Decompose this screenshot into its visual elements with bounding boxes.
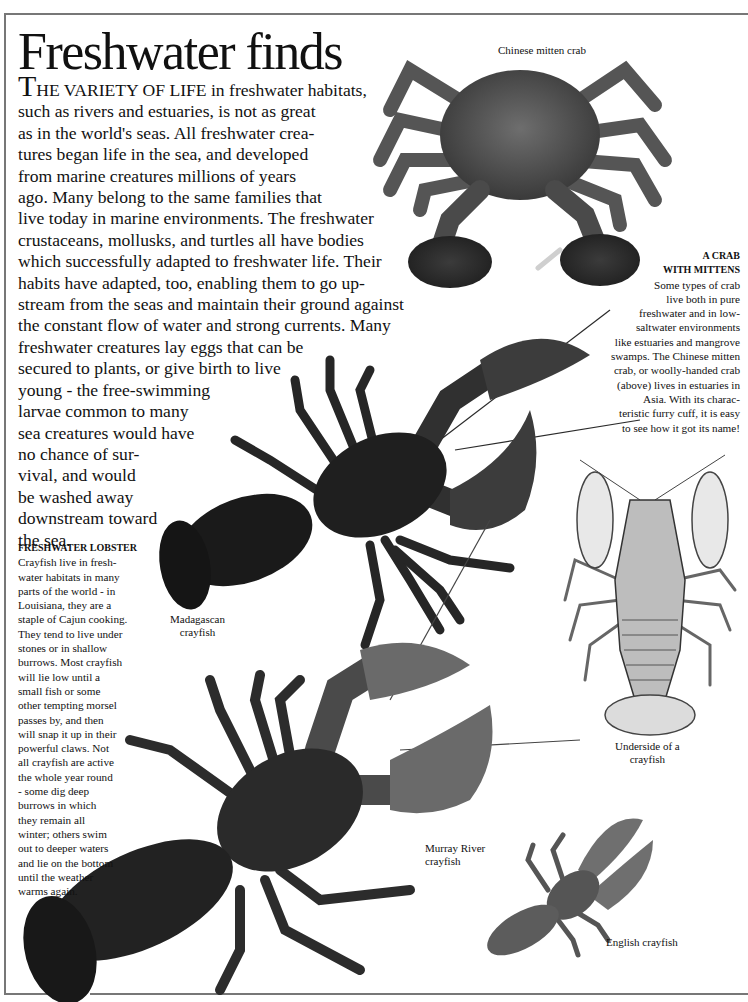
label-line: Murray River (425, 842, 485, 855)
page-title: Freshwater finds (18, 24, 342, 80)
label-chinese-mitten-crab: Chinese mitten crab (498, 44, 586, 57)
underside-tail-fan (605, 695, 695, 735)
intro-line: such as rivers and estuaries, is not as … (18, 101, 404, 122)
label-line: crayfish (425, 855, 485, 868)
crab-caption-heading: WITH MITTENS (550, 263, 740, 277)
label-underside-crayfish: Underside of a crayfish (615, 740, 680, 766)
label-line: Underside of a (615, 740, 680, 753)
lobster-caption-line: - some dig deep (18, 784, 178, 798)
crab-caption-line: Some types of crab (550, 278, 740, 292)
lobster-caption-line: small fish or some (18, 684, 178, 698)
label-murray-river-crayfish: Murray River crayfish (425, 842, 485, 868)
intro-line: live today in marine environments. The f… (18, 208, 404, 229)
intro-smallcaps: HE VARIETY OF LIFE (36, 80, 206, 100)
intro-line: THE VARIETY OF LIFE in freshwater habita… (18, 76, 404, 101)
crab-arm-right (555, 190, 595, 240)
lobster-caption-line: until the weather (18, 870, 178, 884)
lobster-caption: FRESHWATER LOBSTER Crayfish live in fres… (18, 541, 178, 898)
intro-line: as in the world's seas. All freshwater c… (18, 123, 404, 144)
intro-line: which successfully adapted to freshwater… (18, 251, 404, 272)
lobster-caption-line: Crayfish live in fresh- (18, 555, 178, 569)
lobster-caption-line: parts of the world - in (18, 584, 178, 598)
lobster-caption-line: stones or in shallow (18, 641, 178, 655)
lobster-caption-line: burrows. Most crayfish (18, 655, 178, 669)
page-border-left (4, 13, 6, 995)
lobster-caption-line: powerful claws. Not (18, 741, 178, 755)
label-line: crayfish (615, 753, 680, 766)
murray-claw-lower (390, 705, 493, 813)
lobster-caption-line: passes by, and then (18, 713, 178, 727)
underside-claw-right (692, 472, 728, 568)
underside-claw-left (577, 472, 613, 568)
crayfish-claw-upper (480, 339, 590, 400)
underside-body (615, 500, 685, 700)
label-english-crayfish: English crayfish (606, 936, 678, 949)
page-border-top (4, 13, 748, 15)
lobster-caption-line: all crayfish are active (18, 755, 178, 769)
lobster-caption-line: they remain all (18, 813, 178, 827)
underside-crayfish-illustration (560, 450, 740, 740)
lobster-caption-line: will lie low until a (18, 670, 178, 684)
lobster-caption-line: They tend to live under (18, 627, 178, 641)
drop-cap: T (18, 69, 36, 102)
intro-line: tures began life in the sea, and develop… (18, 144, 404, 165)
lobster-caption-line: winter; others swim (18, 827, 178, 841)
lobster-caption-line: Louisiana, they are a (18, 598, 178, 612)
intro-line: from marine creatures millions of years (18, 166, 404, 187)
intro-line-text: in freshwater habitats, (207, 80, 367, 100)
lobster-caption-line: will snap it up in their (18, 727, 178, 741)
lobster-caption-line: out to deeper waters (18, 841, 178, 855)
crab-carapace (440, 70, 600, 200)
crab-caption-heading: A CRAB (550, 249, 740, 263)
lobster-caption-heading: FRESHWATER LOBSTER (18, 541, 178, 555)
crab-mitten-left (408, 236, 492, 288)
lobster-caption-line: warms again. (18, 884, 178, 898)
intro-line: habits have adapted, too, enabling them … (18, 273, 404, 294)
lobster-caption-line: and lie on the bottom (18, 856, 178, 870)
murray-claw-upper (360, 643, 470, 700)
intro-line: crustaceans, mollusks, and turtles all h… (18, 230, 404, 251)
lobster-caption-line: other tempting morsel (18, 698, 178, 712)
intro-line: ago. Many belong to the same families th… (18, 187, 404, 208)
lobster-caption-line: the whole year round (18, 770, 178, 784)
lobster-caption-line: staple of Cajun cooking. (18, 612, 178, 626)
lobster-caption-line: burrows in which (18, 798, 178, 812)
lobster-caption-line: water habitats in many (18, 570, 178, 584)
